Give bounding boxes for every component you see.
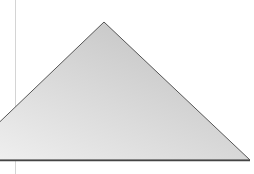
drawing-canvas [0,0,254,174]
triangle-shape-svg [0,0,254,174]
triangle-shape[interactable] [0,22,250,160]
